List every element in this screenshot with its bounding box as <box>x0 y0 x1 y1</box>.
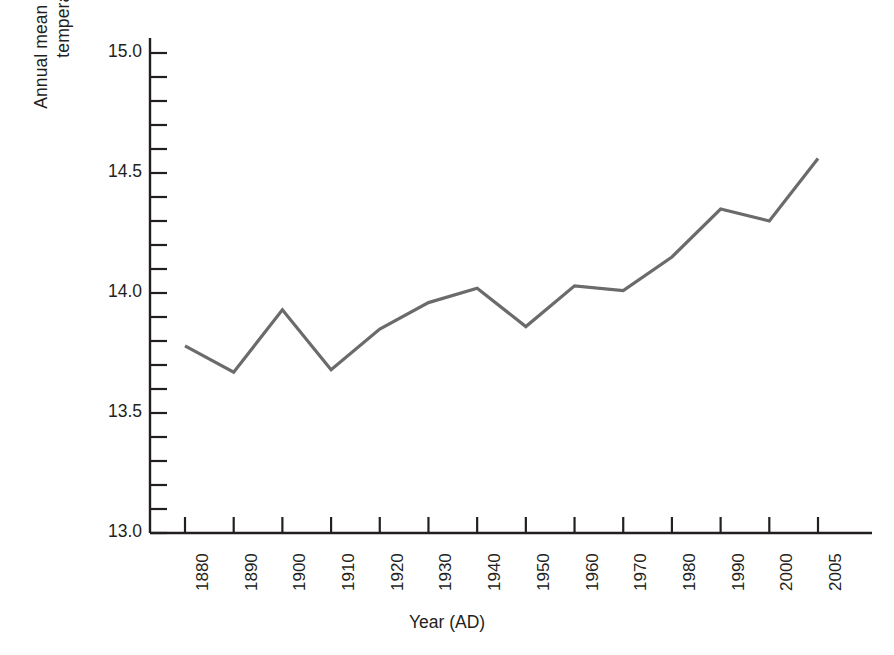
y-axis-tick-label: 14.5 <box>78 161 142 182</box>
x-axis-tick-label: 1990 <box>729 553 749 591</box>
x-axis-tick-label: 1960 <box>583 553 603 591</box>
x-axis-title: Year (AD) <box>0 612 894 633</box>
y-axis-tick-label: 13.0 <box>78 521 142 542</box>
x-axis-tick-label: 2000 <box>777 553 797 591</box>
y-axis-tick-label: 13.5 <box>78 401 142 422</box>
axis-spines <box>150 38 872 533</box>
x-axis-tick-label: 1970 <box>631 553 651 591</box>
x-axis-tick-label: 1950 <box>534 553 554 591</box>
x-axis-tick-label: 1920 <box>388 553 408 591</box>
x-axis-ticks <box>185 517 818 533</box>
x-axis-tick-label: 1910 <box>339 553 359 591</box>
x-axis-tick-label: 1900 <box>290 553 310 591</box>
y-axis-tick-label: 14.0 <box>78 281 142 302</box>
x-axis-tick-label: 1930 <box>436 553 456 591</box>
y-axis-tick-label: 15.0 <box>78 41 142 62</box>
chart-figure: Annual mean global surface temperature ◦… <box>0 0 894 655</box>
x-axis-tick-label: 1940 <box>485 553 505 591</box>
x-axis-tick-label: 1980 <box>680 553 700 591</box>
x-axis-tick-label: 1890 <box>242 553 262 591</box>
x-axis-tick-label: 2005 <box>826 553 846 591</box>
temperature-trend-line <box>185 159 818 373</box>
x-axis-tick-label: 1880 <box>193 553 213 591</box>
